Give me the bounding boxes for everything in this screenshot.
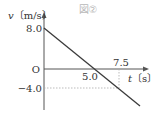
x-axis-label: t〔s〕 [128, 73, 157, 84]
x-tick-5: 5.0 [82, 71, 98, 82]
y-tick-neg4: −4.0 [18, 83, 42, 94]
vt-chart: 図② v〔m/s〕 8.0 O −4.0 5.0 7.5 t〔s〕 [0, 0, 161, 118]
x-tick-7-5: 7.5 [113, 57, 129, 68]
chart-title: 図② [79, 4, 98, 15]
x-axis-unit: 〔s〕 [132, 73, 157, 84]
origin-label: O [32, 64, 40, 75]
y-axis-label: v〔m/s〕 [8, 10, 52, 21]
x-axis-arrow-icon [143, 67, 149, 72]
y-tick-8: 8.0 [26, 23, 42, 34]
y-axis-unit: 〔m/s〕 [14, 10, 52, 21]
